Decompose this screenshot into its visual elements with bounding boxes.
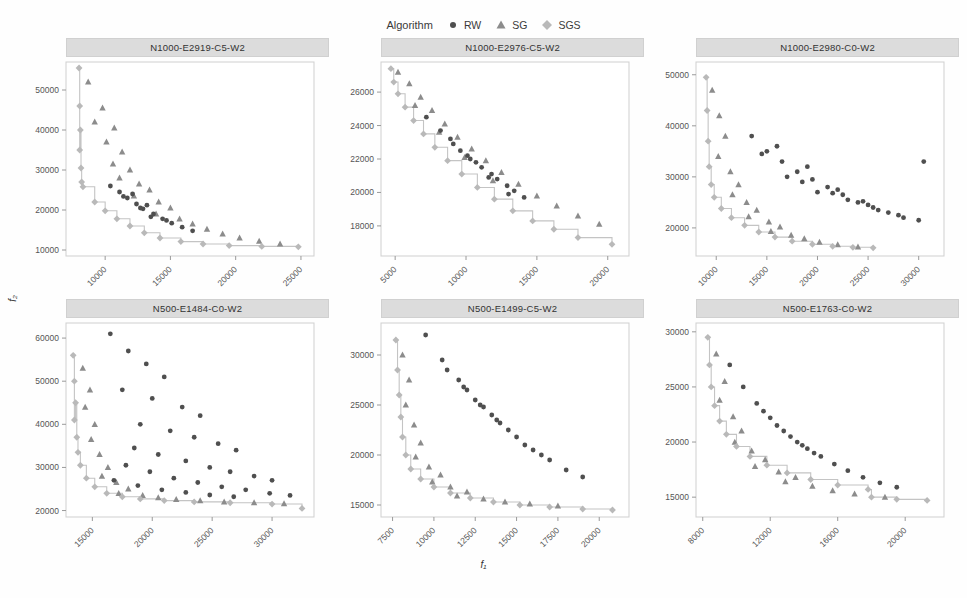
legend-title: Algorithm	[386, 19, 432, 31]
triangle-icon	[495, 19, 507, 31]
svg-text:40000: 40000	[665, 121, 689, 131]
facet-panel: N1000-E2976-C5-W2 1800020000220002400026…	[335, 38, 644, 297]
facet-chart: f₂ N1000-E2919-C5-W2 1000020000300004000…	[0, 38, 967, 558]
facet-panel: N500-E1499-C5-W2 15000200002500030000750…	[335, 299, 644, 558]
legend: Algorithm RW SG SGS	[0, 0, 967, 38]
scatter-plot: 150002000025000300008000120001600020000	[650, 318, 952, 558]
svg-text:10000: 10000	[414, 525, 438, 549]
svg-text:20000: 20000	[132, 525, 156, 549]
legend-label-rw: RW	[464, 19, 481, 31]
svg-text:20000: 20000	[665, 223, 689, 233]
scatter-plot: 1000020000300004000050000100001500020000…	[20, 57, 322, 297]
svg-text:10000: 10000	[696, 264, 720, 288]
svg-text:30000: 30000	[665, 327, 689, 337]
svg-text:20000: 20000	[797, 264, 821, 288]
svg-text:12500: 12500	[455, 525, 479, 549]
svg-text:15000: 15000	[496, 525, 520, 549]
svg-text:30000: 30000	[35, 165, 59, 175]
svg-text:60000: 60000	[35, 333, 59, 343]
svg-text:30000: 30000	[252, 525, 276, 549]
facet-panel: N1000-E2980-C0-W2 2000030000400005000010…	[650, 38, 959, 297]
svg-text:24000: 24000	[350, 121, 374, 131]
svg-text:12000: 12000	[750, 525, 774, 549]
facet-panel: N500-E1484-C0-W2 20000300004000050000600…	[20, 299, 329, 558]
figure-page: Algorithm RW SG SGS f₂ N1000-E2919-C5-W2…	[0, 0, 967, 598]
scatter-plot: 2000030000400005000060000150002000025000…	[20, 318, 322, 558]
facet-strip-title: N1000-E2980-C0-W2	[696, 38, 959, 57]
svg-text:50000: 50000	[665, 70, 689, 80]
legend-item-sgs: SGS	[541, 19, 580, 31]
facet-strip-title: N1000-E2919-C5-W2	[66, 38, 329, 57]
svg-text:18000: 18000	[350, 221, 374, 231]
x-axis-title: f₁	[0, 558, 967, 574]
svg-text:20000: 20000	[350, 450, 374, 460]
facet-strip-title: N500-E1763-C0-W2	[696, 299, 959, 318]
facet-strip-title: N500-E1499-C5-W2	[381, 299, 644, 318]
svg-text:25000: 25000	[192, 525, 216, 549]
legend-item-sg: SG	[495, 19, 527, 31]
diamond-icon	[541, 19, 553, 31]
circle-icon	[447, 19, 459, 31]
svg-text:20000: 20000	[350, 187, 374, 197]
facet-strip-title: N1000-E2976-C5-W2	[381, 38, 644, 57]
facet-panel: N500-E1763-C0-W2 15000200002500030000800…	[650, 299, 959, 558]
y-axis-title: f₂	[4, 38, 20, 558]
svg-text:40000: 40000	[35, 125, 59, 135]
facet-strip-title: N500-E1484-C0-W2	[66, 299, 329, 318]
scatter-plot: 1800020000220002400026000500010000150002…	[335, 57, 637, 297]
svg-text:25000: 25000	[350, 400, 374, 410]
legend-label-sg: SG	[512, 19, 527, 31]
svg-text:15000: 15000	[517, 264, 541, 288]
svg-text:30000: 30000	[350, 350, 374, 360]
legend-label-sgs: SGS	[558, 19, 580, 31]
svg-text:30000: 30000	[665, 172, 689, 182]
svg-text:15000: 15000	[746, 264, 770, 288]
scatter-plot: 2000030000400005000010000150002000025000…	[650, 57, 952, 297]
svg-text:30000: 30000	[35, 462, 59, 472]
svg-text:10000: 10000	[446, 264, 470, 288]
svg-text:15000: 15000	[665, 492, 689, 502]
svg-text:17500: 17500	[538, 525, 562, 549]
facet-panel: N1000-E2919-C5-W2 1000020000300004000050…	[20, 38, 329, 297]
svg-text:50000: 50000	[35, 85, 59, 95]
svg-text:10000: 10000	[35, 245, 59, 255]
svg-text:8000: 8000	[686, 525, 707, 546]
svg-text:5000: 5000	[378, 264, 399, 285]
svg-text:25000: 25000	[665, 382, 689, 392]
svg-text:20000: 20000	[35, 506, 59, 516]
scatter-plot: 1500020000250003000075001000012500150001…	[335, 318, 637, 558]
svg-text:15000: 15000	[350, 500, 374, 510]
svg-text:22000: 22000	[350, 154, 374, 164]
svg-text:20000: 20000	[579, 525, 603, 549]
svg-text:40000: 40000	[35, 419, 59, 429]
legend-item-rw: RW	[447, 19, 481, 31]
svg-text:25000: 25000	[848, 264, 872, 288]
svg-text:7500: 7500	[376, 525, 397, 546]
svg-text:50000: 50000	[35, 376, 59, 386]
svg-text:20000: 20000	[587, 264, 611, 288]
svg-text:16000: 16000	[817, 525, 841, 549]
svg-text:20000: 20000	[885, 525, 909, 549]
svg-text:20000: 20000	[665, 437, 689, 447]
svg-text:20000: 20000	[215, 264, 239, 288]
svg-text:30000: 30000	[898, 264, 922, 288]
svg-text:26000: 26000	[350, 87, 374, 97]
svg-text:20000: 20000	[35, 205, 59, 215]
svg-text:10000: 10000	[85, 264, 109, 288]
svg-text:15000: 15000	[72, 525, 96, 549]
svg-text:25000: 25000	[281, 264, 305, 288]
svg-text:15000: 15000	[150, 264, 174, 288]
facet-grid: N1000-E2919-C5-W2 1000020000300004000050…	[20, 38, 967, 558]
